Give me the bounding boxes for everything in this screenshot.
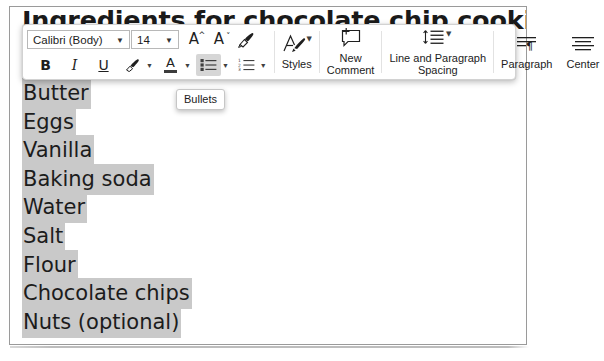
text-highlight-color-button[interactable] bbox=[120, 54, 145, 76]
chevron-down-icon[interactable]: ▼ bbox=[162, 36, 178, 45]
font-color-letter: A bbox=[166, 56, 175, 69]
bold-icon: B bbox=[40, 58, 51, 72]
list-item[interactable]: Salt bbox=[22, 222, 192, 251]
bullets-tooltip-label: Bullets bbox=[184, 93, 217, 105]
new-comment-icon bbox=[339, 27, 363, 50]
grow-font-button[interactable]: A^ bbox=[184, 29, 209, 51]
highlighter-pen-icon bbox=[125, 58, 141, 72]
center-align-button[interactable]: Center bbox=[559, 25, 604, 79]
format-painter-icon bbox=[238, 32, 255, 48]
line-and-paragraph-spacing-button[interactable]: ▼ Line and Paragraph Spacing bbox=[382, 25, 493, 79]
paragraph-label: Paragraph bbox=[501, 58, 552, 71]
font-color-swatch bbox=[164, 70, 177, 73]
list-item-text: Baking soda bbox=[22, 164, 154, 195]
svg-text:▼: ▼ bbox=[306, 35, 312, 43]
list-item-text: Salt bbox=[22, 221, 65, 252]
font-color-button[interactable]: A bbox=[158, 54, 183, 76]
chevron-down-icon[interactable]: ▼ bbox=[221, 62, 232, 69]
chevron-down-icon[interactable]: ▼ bbox=[113, 36, 129, 45]
list-item-text: Water bbox=[22, 192, 87, 223]
list-item[interactable]: Nuts (optional) bbox=[22, 308, 192, 337]
svg-text:3: 3 bbox=[238, 67, 241, 72]
list-item[interactable]: Chocolate chips bbox=[22, 279, 192, 308]
format-painter-button[interactable] bbox=[234, 29, 259, 51]
font-group-row-1: Calibri (Body) ▼ 14 ▼ A^ A˅ bbox=[27, 27, 270, 52]
list-item[interactable]: Flour bbox=[22, 251, 192, 280]
paragraph-mark-icon: ¶ bbox=[514, 32, 540, 56]
new-comment-label: New Comment bbox=[327, 52, 375, 77]
svg-text:▼: ▼ bbox=[446, 30, 452, 38]
underline-button[interactable]: U bbox=[91, 54, 116, 76]
chevron-down-icon[interactable]: ▼ bbox=[145, 62, 156, 69]
list-item-text: Vanilla bbox=[22, 135, 94, 166]
italic-icon: I bbox=[72, 58, 78, 72]
page-shadow bbox=[10, 346, 529, 348]
font-size-value: 14 bbox=[132, 34, 154, 46]
new-comment-button[interactable]: New Comment bbox=[320, 25, 382, 79]
line-spacing-label: Line and Paragraph Spacing bbox=[389, 52, 486, 77]
bullets-icon bbox=[200, 58, 217, 72]
paragraph-button[interactable]: ¶ Paragraph bbox=[494, 25, 559, 79]
list-item[interactable]: Baking soda bbox=[22, 165, 192, 194]
ingredient-list[interactable]: Butter Eggs Vanilla Baking soda Water Sa… bbox=[22, 79, 192, 336]
list-item-text: Nuts (optional) bbox=[22, 307, 181, 338]
font-name-input[interactable]: Calibri (Body) ▼ bbox=[27, 30, 130, 49]
shrink-font-icon: A˅ bbox=[214, 32, 229, 47]
shrink-font-button[interactable]: A˅ bbox=[209, 29, 234, 51]
list-item[interactable]: Water bbox=[22, 193, 192, 222]
styles-label: Styles bbox=[282, 58, 312, 71]
styles-button[interactable]: ▼ Styles bbox=[275, 25, 319, 79]
center-label: Center bbox=[566, 58, 599, 71]
svg-text:¶: ¶ bbox=[526, 40, 533, 53]
italic-button[interactable]: I bbox=[62, 54, 87, 76]
numbering-button[interactable]: 1 2 3 bbox=[234, 54, 259, 76]
font-group-row-2: B I U ▼ A bbox=[27, 52, 270, 77]
align-center-icon bbox=[570, 32, 596, 56]
shrink-font-letter: A bbox=[214, 30, 224, 48]
underline-icon: U bbox=[98, 58, 108, 72]
chevron-down-icon[interactable]: ▼ bbox=[259, 62, 270, 69]
chevron-down-icon[interactable]: ▼ bbox=[183, 62, 194, 69]
bold-button[interactable]: B bbox=[33, 54, 58, 76]
floating-mini-toolbar[interactable]: Calibri (Body) ▼ 14 ▼ A^ A˅ bbox=[22, 24, 516, 80]
list-item-text: Chocolate chips bbox=[22, 278, 192, 309]
bullets-button[interactable] bbox=[196, 54, 221, 76]
font-size-input[interactable]: 14 ▼ bbox=[131, 30, 179, 49]
bullets-tooltip: Bullets bbox=[176, 89, 225, 110]
list-item[interactable]: Vanilla bbox=[22, 136, 192, 165]
font-group: Calibri (Body) ▼ 14 ▼ A^ A˅ bbox=[23, 25, 274, 79]
list-item-text: Eggs bbox=[22, 107, 76, 138]
line-spacing-icon: ▼ bbox=[421, 27, 455, 50]
font-name-value: Calibri (Body) bbox=[28, 34, 107, 46]
list-item[interactable]: Eggs bbox=[22, 108, 192, 137]
list-item-text: Flour bbox=[22, 250, 78, 281]
grow-font-icon: A^ bbox=[189, 32, 204, 47]
font-color-icon: A bbox=[164, 56, 177, 73]
list-item-text: Butter bbox=[22, 78, 91, 109]
numbering-icon: 1 2 3 bbox=[238, 58, 255, 72]
list-item[interactable]: Butter bbox=[22, 79, 192, 108]
styles-icon: ▼ bbox=[282, 32, 312, 56]
